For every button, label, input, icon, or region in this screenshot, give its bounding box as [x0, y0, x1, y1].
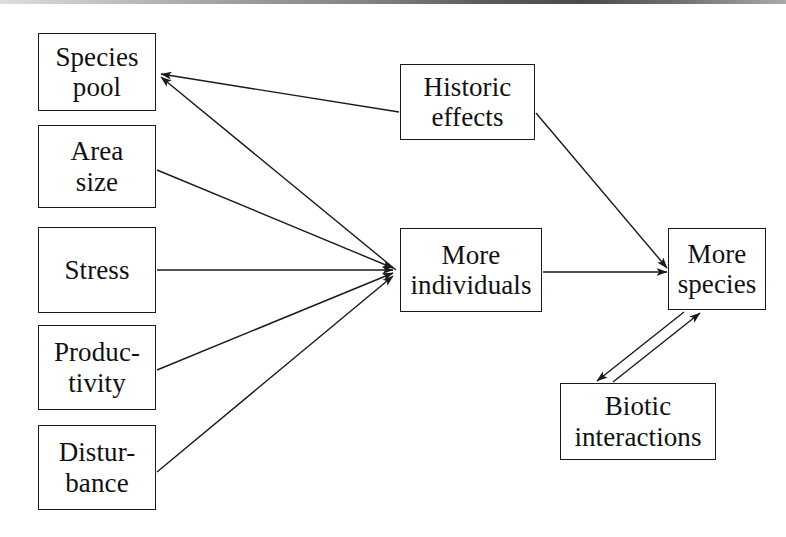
node-disturbance-label: Distur- bance — [55, 437, 140, 497]
node-species-pool[interactable]: Species pool — [38, 33, 156, 111]
node-area-size-label: Area size — [67, 136, 128, 196]
node-more-species-label: More species — [674, 239, 761, 299]
node-productivity[interactable]: Produc- tivity — [38, 325, 156, 410]
node-area-size[interactable]: Area size — [38, 125, 156, 208]
node-more-individuals-label: More individuals — [406, 240, 535, 300]
edge-area-size-to-more-individuals — [157, 170, 393, 268]
node-more-species[interactable]: More species — [668, 228, 766, 310]
node-productivity-label: Produc- tivity — [50, 337, 144, 397]
node-stress-label: Stress — [60, 255, 133, 285]
node-species-pool-label: Species pool — [51, 42, 142, 102]
edge-biotic-to-more-species — [613, 313, 700, 382]
edge-disturbance-to-more-individuals — [157, 276, 393, 472]
edge-more-species-to-biotic — [597, 312, 684, 381]
edge-historic-to-more-species — [536, 113, 667, 268]
node-disturbance[interactable]: Distur- bance — [38, 425, 156, 510]
node-biotic-interactions-label: Biotic interactions — [570, 391, 705, 451]
node-stress[interactable]: Stress — [38, 227, 156, 313]
node-historic-effects[interactable]: Historic effects — [400, 64, 535, 140]
node-more-individuals[interactable]: More individuals — [400, 228, 542, 312]
diagram-canvas: Species pool Area size Stress Produc- ti… — [0, 0, 786, 537]
edge-productivity-to-more-individuals — [157, 273, 393, 370]
node-biotic-interactions[interactable]: Biotic interactions — [560, 383, 716, 460]
node-historic-effects-label: Historic effects — [420, 72, 516, 132]
